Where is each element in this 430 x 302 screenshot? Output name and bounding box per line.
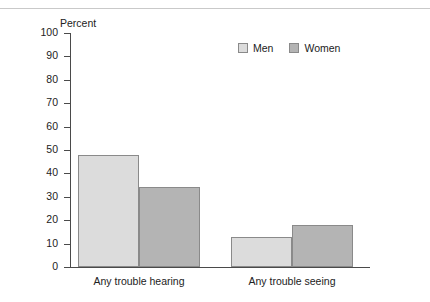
y-axis-tick-label: 40 [46,166,58,178]
y-axis-tick: 30 [0,197,80,198]
y-axis-tick-label: 10 [46,237,58,249]
y-axis-tick-label: 30 [46,190,58,202]
chart-legend: MenWomen [238,42,340,54]
y-axis-tick-mark [64,173,70,174]
legend-swatch-icon [289,43,299,53]
y-axis-tick-mark [64,56,70,57]
y-axis-tick: 20 [0,220,80,221]
y-axis-tick-mark [64,150,70,151]
category-label-0: Any trouble hearing [78,275,200,287]
y-axis-tick-mark [64,267,70,268]
legend-entry-men: Men [238,42,273,54]
y-axis-tick-label: 50 [46,143,58,155]
x-axis-line [70,267,370,268]
y-axis-tick-label: 80 [46,73,58,85]
y-axis-title: Percent [60,17,96,29]
y-axis-tick-label: 70 [46,96,58,108]
y-axis-tick: 80 [0,80,80,81]
y-axis-tick-label: 90 [46,49,58,61]
bar-chart: Percent 1009080706050403020100 Any troub… [0,0,430,302]
legend-swatch-icon [238,43,248,53]
bar-women-1 [292,225,353,267]
y-axis-tick: 60 [0,127,80,128]
y-axis-tick-mark [64,220,70,221]
legend-entry-women: Women [289,42,340,54]
y-axis-tick-mark [64,103,70,104]
bar-men-1 [231,237,292,267]
bar-men-0 [78,155,139,267]
chart-page: Percent 1009080706050403020100 Any troub… [0,0,430,302]
y-axis-tick-mark [64,127,70,128]
y-axis-tick: 90 [0,56,80,57]
y-axis-tick-mark [64,197,70,198]
y-axis-tick-label: 0 [52,260,58,272]
y-axis-tick: 40 [0,173,80,174]
y-axis-tick: 10 [0,244,80,245]
y-axis-tick: 70 [0,103,80,104]
y-axis-tick-label: 20 [46,213,58,225]
y-axis-tick-label: 60 [46,120,58,132]
y-axis-tick-mark [64,80,70,81]
y-axis-tick: 0 [0,267,80,268]
y-axis-tick-label: 100 [40,26,58,38]
y-axis-tick: 100 [0,33,80,34]
y-axis-tick-mark [64,244,70,245]
bar-women-0 [139,187,200,267]
legend-label: Men [253,42,273,54]
y-axis-tick: 50 [0,150,80,151]
category-label-1: Any trouble seeing [231,275,353,287]
legend-label: Women [304,42,340,54]
y-axis-tick-mark [64,33,70,34]
